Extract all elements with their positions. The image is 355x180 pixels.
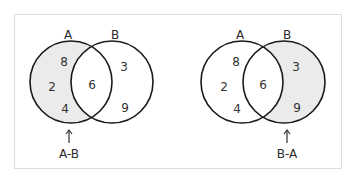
venn-diagrams: A B 8 2 4 6 3 9 A-B A B 8 2 4 6 3 9 B-A [0,0,355,180]
set-label-a: A [64,28,73,42]
element-2: 2 [220,80,228,94]
element-8: 8 [232,55,240,69]
venn-left: A B 8 2 4 6 3 9 A-B [30,28,153,161]
element-6: 6 [259,78,267,92]
venn-right: A B 8 2 4 6 3 9 B-A [201,28,325,161]
caption-b-minus-a: B-A [277,147,298,161]
set-label-a: A [236,28,245,42]
caption-a-minus-b: A-B [59,147,79,161]
set-label-b: B [283,28,291,42]
element-9: 9 [121,101,129,115]
element-6: 6 [88,78,96,92]
arrow-up-icon [284,130,290,143]
arrow-up-icon [66,130,72,143]
element-8: 8 [60,55,68,69]
element-4: 4 [61,102,69,116]
set-label-b: B [111,28,119,42]
element-3: 3 [120,60,128,74]
element-9: 9 [293,101,301,115]
element-2: 2 [48,80,56,94]
element-4: 4 [233,102,241,116]
element-3: 3 [292,60,300,74]
